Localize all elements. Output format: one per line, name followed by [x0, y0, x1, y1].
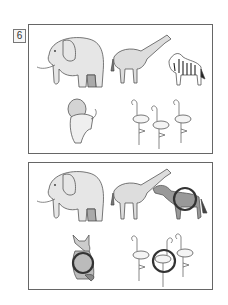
giraffe-illustration [111, 35, 171, 83]
flamingo-illustration-2 [152, 106, 169, 149]
flamingo-illustration-1 [132, 236, 149, 281]
zebra-illustration [169, 54, 205, 85]
lion-illustration [68, 99, 96, 143]
flamingo-group [132, 100, 191, 149]
elephant-illustration [37, 172, 103, 221]
flamingo-illustration-3 [176, 234, 193, 277]
flamingo-illustration-3 [174, 100, 191, 143]
flamingo-illustration-2 [153, 238, 175, 287]
flamingo-illustration-1 [132, 100, 149, 145]
elephant-illustration [37, 38, 103, 87]
bottom-picture-panel [28, 162, 213, 290]
cat-illustration [73, 235, 94, 281]
horse-illustration [153, 185, 207, 219]
top-picture-panel [28, 24, 213, 154]
puzzle-number-badge: 6 [13, 29, 26, 43]
flamingo-group [132, 234, 193, 287]
